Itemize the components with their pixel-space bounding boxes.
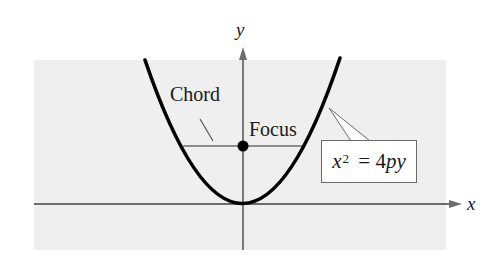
chord-label: Chord — [170, 84, 220, 104]
x-axis-label: x — [467, 194, 475, 213]
equation-vars: py — [386, 149, 406, 174]
equation-equals: = 4 — [353, 149, 386, 174]
equation-box: x2 = 4py — [321, 140, 417, 183]
equation-base: x — [332, 149, 341, 174]
equation-exponent: 2 — [343, 151, 350, 167]
focus-point — [238, 141, 249, 152]
y-axis-label: y — [236, 20, 244, 39]
x-axis-arrow-icon — [449, 200, 462, 208]
y-axis-arrow-icon — [239, 47, 247, 60]
focus-label: Focus — [249, 119, 297, 139]
